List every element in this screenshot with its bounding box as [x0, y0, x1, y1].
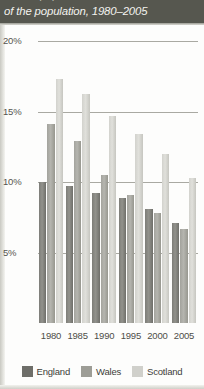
bar-england-2005: [172, 223, 179, 323]
legend-label: Wales: [96, 366, 121, 377]
bar-scotland-1985: [82, 94, 89, 324]
bar-wales-1980: [47, 124, 54, 323]
legend-swatch-icon: [132, 366, 143, 377]
legend-label: England: [37, 366, 70, 377]
bar-scotland-1980: [56, 79, 63, 323]
bar-england-2000: [145, 209, 152, 323]
legend-swatch-icon: [81, 366, 92, 377]
legend-item-england: England: [22, 366, 70, 377]
title-previous-line: of the population: [8, 0, 91, 1]
bar-scotland-2005: [189, 178, 196, 323]
chart-legend: EnglandWalesScotland: [0, 362, 204, 380]
bar-wales-2000: [154, 213, 161, 323]
bar-england-1995: [119, 198, 126, 323]
bar-scotland-1990: [109, 116, 116, 323]
chart-title-band: of the population of the population, 198…: [0, 0, 204, 23]
legend-label: Scotland: [147, 366, 182, 377]
bar-wales-1995: [127, 195, 134, 323]
bar-england-1990: [92, 193, 99, 323]
bar-scotland-1995: [135, 134, 142, 323]
plot-area: 20%15%10%5%: [0, 25, 204, 328]
legend-swatch-icon: [22, 366, 33, 377]
bar-england-1980: [39, 182, 46, 323]
bar-wales-1990: [101, 175, 108, 323]
bar-wales-1985: [74, 141, 81, 323]
x-axis-tick-label: 2005: [167, 330, 201, 341]
bars-layer: [0, 25, 204, 328]
chart-title: of the population, 1980–2005: [4, 4, 147, 18]
chart-figure: of the population of the population, 198…: [0, 0, 204, 389]
bar-scotland-2000: [162, 154, 169, 323]
legend-item-scotland: Scotland: [132, 366, 182, 377]
page-edge-bottom: [0, 385, 204, 389]
legend-item-wales: Wales: [81, 366, 121, 377]
x-axis-labels: 198019851990199520002005: [0, 330, 204, 346]
bar-wales-2005: [180, 229, 187, 323]
bar-england-1985: [66, 186, 73, 323]
